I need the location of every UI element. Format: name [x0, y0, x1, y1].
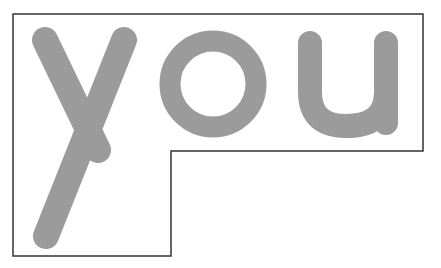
- word-canvas: [0, 0, 441, 268]
- letter-u: [310, 43, 386, 126]
- letter-y: [45, 40, 124, 236]
- letter-o: [170, 41, 256, 127]
